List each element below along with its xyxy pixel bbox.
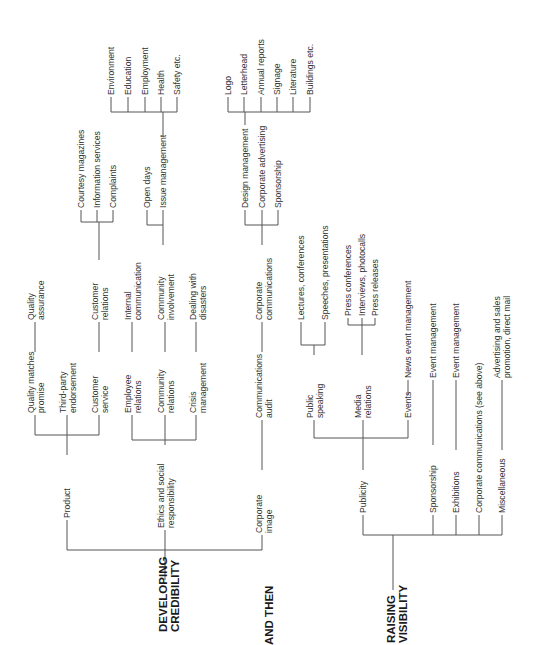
node-label: Exhibitions bbox=[451, 471, 461, 513]
node-label: Corporate advertising bbox=[257, 126, 267, 208]
node-complaints: Complaints bbox=[108, 165, 118, 208]
node-health: Health bbox=[156, 70, 166, 95]
root-line-1: DEVELOPING bbox=[157, 557, 169, 632]
node-label: endorsement bbox=[68, 363, 78, 413]
node-event-management-sponsorship: Event management bbox=[428, 303, 438, 378]
node-label: Internal bbox=[123, 262, 133, 320]
node-label: promise bbox=[36, 351, 46, 413]
node-news-event-management: News event management bbox=[403, 281, 413, 378]
node-label: assurance bbox=[36, 280, 46, 320]
node-label: Safety etc. bbox=[172, 54, 182, 95]
node-advertising-sales-promotion: Advertising and sales promotion, direct … bbox=[492, 296, 512, 378]
node-label: Corporate bbox=[254, 258, 264, 320]
node-label: communications bbox=[264, 258, 274, 320]
node-letterhead: Letterhead bbox=[239, 54, 249, 95]
node-label: Third-party bbox=[58, 363, 68, 413]
node-label: audit bbox=[264, 354, 274, 418]
node-label: relations bbox=[100, 283, 110, 320]
node-label: Community bbox=[156, 370, 166, 413]
node-label: Ethics and social bbox=[156, 464, 166, 529]
node-label: Sponsorship bbox=[273, 160, 283, 208]
node-community-relations: Community relations bbox=[156, 370, 176, 413]
node-issue-management: Issue management bbox=[158, 135, 168, 208]
node-label: Literature bbox=[288, 59, 298, 95]
node-label: Quality matches bbox=[26, 351, 36, 413]
node-label: image bbox=[264, 495, 274, 533]
node-label: relations bbox=[133, 375, 143, 413]
node-publicity: Publicity bbox=[358, 481, 368, 513]
node-safety: Safety etc. bbox=[172, 54, 182, 95]
node-label: Crisis bbox=[188, 363, 198, 413]
node-label: Corporate bbox=[254, 495, 264, 533]
node-label: Health bbox=[156, 70, 166, 95]
node-label: News event management bbox=[403, 281, 413, 378]
node-corporate-advertising: Corporate advertising bbox=[257, 126, 267, 208]
node-logo: Logo bbox=[223, 76, 233, 95]
node-label: responsibility bbox=[166, 464, 176, 529]
node-corporate-image: Corporate image bbox=[254, 495, 274, 533]
root-line-2: VISIBILITY bbox=[397, 585, 409, 643]
node-label: Signage bbox=[272, 63, 282, 95]
node-label: relations bbox=[363, 386, 373, 418]
node-label: Press releases bbox=[370, 259, 380, 316]
node-employee-relations: Employee relations bbox=[123, 375, 143, 413]
node-interviews-photocalls: Interviews, photocalls bbox=[357, 234, 367, 316]
node-label: Quality bbox=[26, 280, 36, 320]
node-miscellaneous: Miscellaneous bbox=[497, 459, 507, 513]
root-line-2: CREDIBILITY bbox=[169, 557, 181, 632]
node-label: Advertising and sales bbox=[492, 296, 502, 378]
node-open-days: Open days bbox=[142, 166, 152, 208]
node-label: Speeches, presentations bbox=[320, 225, 330, 320]
node-community-involvement: Community involvement bbox=[156, 274, 176, 320]
node-label: Employee bbox=[123, 375, 133, 413]
node-label: Education bbox=[123, 57, 133, 95]
node-label: Events bbox=[403, 392, 413, 418]
node-customer-service: Customer service bbox=[90, 376, 110, 413]
node-press-conferences: Press conferences bbox=[343, 245, 353, 316]
node-design-management: Design management bbox=[240, 129, 250, 208]
node-corporate-communications: Corporate communications bbox=[254, 258, 274, 320]
node-product: Product bbox=[62, 488, 72, 518]
node-label: Dealing with bbox=[188, 273, 198, 320]
node-internal-communication: Internal communication bbox=[123, 262, 143, 320]
node-label: Letterhead bbox=[239, 54, 249, 95]
node-third-party-endorsement: Third-party endorsement bbox=[58, 363, 78, 413]
node-lectures-conferences: Lectures, conferences bbox=[296, 235, 306, 320]
node-customer-relations: Customer relations bbox=[90, 283, 110, 320]
node-employment: Employment bbox=[140, 47, 150, 95]
node-literature: Literature bbox=[288, 59, 298, 95]
node-label: Courtesy magazines bbox=[76, 130, 86, 208]
node-signage: Signage bbox=[272, 63, 282, 95]
node-environment: Environment bbox=[106, 47, 116, 95]
node-label: speaking bbox=[315, 384, 325, 418]
node-label: Lectures, conferences bbox=[296, 235, 306, 320]
node-label: Complaints bbox=[108, 165, 118, 208]
root-and-then: AND THEN bbox=[263, 586, 275, 645]
node-label: Design management bbox=[240, 129, 250, 208]
node-label: Communications bbox=[254, 354, 264, 418]
node-label: involvement bbox=[166, 274, 176, 320]
node-label: Event management bbox=[451, 303, 461, 378]
node-ethics-social-responsibility: Ethics and social responsibility bbox=[156, 464, 176, 529]
node-label: Product bbox=[62, 488, 72, 518]
node-buildings: Buildings etc. bbox=[305, 44, 315, 95]
node-dealing-with-disasters: Dealing with disasters bbox=[188, 273, 208, 320]
node-label: Logo bbox=[223, 76, 233, 95]
node-label: Issue management bbox=[158, 135, 168, 208]
node-label: Press conferences bbox=[343, 245, 353, 316]
node-press-releases: Press releases bbox=[370, 259, 380, 316]
node-label: management bbox=[198, 363, 208, 413]
node-courtesy-magazines: Courtesy magazines bbox=[76, 130, 86, 208]
node-exhibitions: Exhibitions bbox=[451, 471, 461, 513]
node-sponsorship: Sponsorship bbox=[428, 465, 438, 513]
node-label: Open days bbox=[142, 166, 152, 208]
node-label: Customer bbox=[90, 376, 100, 413]
node-label: Information services bbox=[92, 131, 102, 208]
credibility-visibility-tree-diagram: DEVELOPING CREDIBILITY AND THEN RAISING … bbox=[0, 0, 537, 645]
node-speeches-presentations: Speeches, presentations bbox=[320, 225, 330, 320]
node-label: service bbox=[100, 376, 110, 413]
node-label: Event management bbox=[428, 303, 438, 378]
node-label: Miscellaneous bbox=[497, 459, 507, 513]
node-label: Employment bbox=[140, 47, 150, 95]
node-media-relations: Media relations bbox=[353, 386, 373, 418]
